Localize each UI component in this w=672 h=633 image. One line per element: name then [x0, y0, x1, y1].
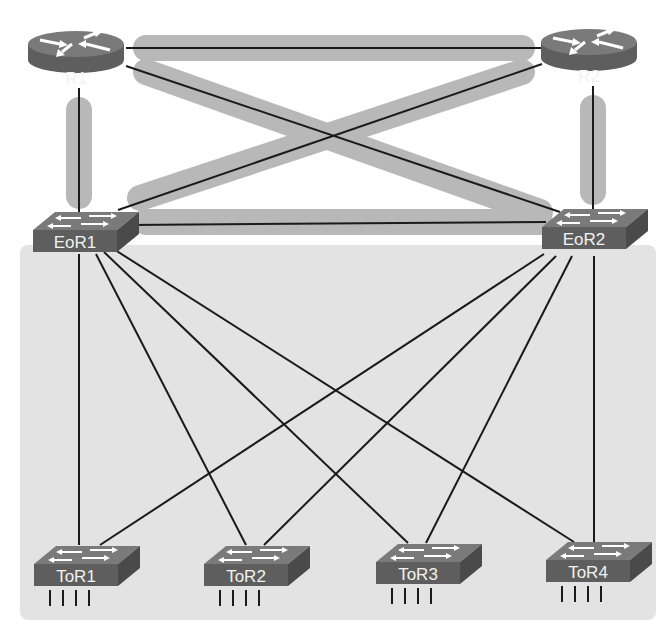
- switch-eor1[interactable]: EoR1: [33, 212, 139, 252]
- switch-label: ToR3: [398, 565, 438, 584]
- switch-label: ToR1: [56, 567, 96, 586]
- switch-label: ToR4: [568, 563, 608, 582]
- switch-label: EoR2: [563, 230, 606, 249]
- switch-eor2[interactable]: EoR2: [542, 209, 648, 249]
- router-icon: [28, 30, 124, 73]
- network-topology-diagram: R1 R2 EoR1 EoR2 ToR1 ToR2 ToR3 ToR4: [0, 0, 672, 633]
- router-icon: [541, 28, 637, 71]
- router-label: R2: [578, 67, 600, 86]
- router-r1[interactable]: R1: [28, 30, 124, 88]
- router-label: R1: [65, 69, 87, 88]
- switch-label: ToR2: [226, 567, 266, 586]
- router-r2[interactable]: R2: [541, 28, 637, 86]
- switch-label: EoR1: [54, 233, 97, 252]
